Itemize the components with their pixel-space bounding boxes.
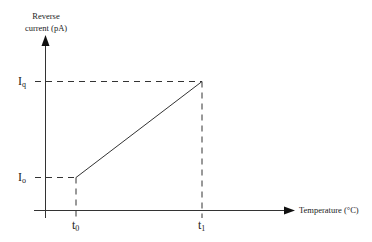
reverse-current-line — [76, 82, 202, 178]
x-axis-title: Temperature (°C) — [299, 206, 359, 215]
y-axis-title: Reverse current (pA) — [20, 12, 72, 32]
y-axis — [42, 35, 50, 218]
x-axis — [34, 207, 295, 215]
y-axis-title-line1: Reverse — [20, 12, 72, 21]
y-axis-title-line2: current (pA) — [20, 24, 72, 33]
iq-label: Iq — [18, 75, 26, 89]
reverse-current-diagram: Reverse current (pA) Temperature (°C) Iq… — [0, 0, 372, 242]
t1-label: t1 — [198, 219, 205, 233]
t0-label: t0 — [72, 219, 79, 233]
io-label: Io — [18, 171, 26, 185]
y-axis-arrow-icon — [42, 35, 50, 46]
x-axis-arrow-icon — [284, 207, 295, 215]
